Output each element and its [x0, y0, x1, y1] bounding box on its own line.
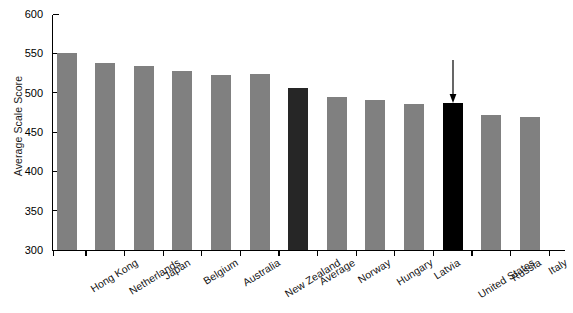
x-category-label: Hungary — [394, 256, 435, 288]
x-tick-mark — [510, 250, 511, 256]
y-tick-label: 450 — [25, 124, 43, 140]
bar — [288, 88, 308, 250]
y-tick-label: 300 — [25, 242, 43, 258]
y-tick-label: 600 — [25, 6, 43, 22]
x-tick-mark — [201, 250, 202, 256]
x-tick-mark — [240, 250, 241, 256]
bar — [57, 53, 77, 250]
bar — [95, 63, 115, 250]
y-axis-title: Average Scale Score — [12, 46, 24, 206]
bar — [520, 117, 540, 250]
x-tick-mark — [356, 250, 357, 256]
x-tick-mark — [471, 250, 472, 256]
bar-chart: Average Scale Score 60055050045040035030… — [0, 0, 573, 313]
bar — [134, 66, 154, 250]
y-tick-label: 500 — [25, 85, 43, 101]
x-tick-mark — [394, 250, 395, 256]
x-category-label: Norway — [355, 256, 392, 285]
x-tick-mark — [433, 250, 434, 256]
bar — [327, 97, 347, 250]
x-category-label: Latvia — [431, 256, 462, 281]
x-category-label: Australia — [240, 256, 282, 288]
x-tick-mark — [124, 250, 125, 256]
x-tick-mark — [163, 250, 164, 256]
y-tick-mark — [53, 14, 59, 15]
plot-area: 600550500450400350300 — [52, 15, 565, 251]
y-tick-label: 550 — [25, 45, 43, 61]
x-tick-mark — [53, 250, 54, 256]
x-tick-mark — [317, 250, 318, 256]
bar — [172, 71, 192, 250]
y-tick-label: 400 — [25, 163, 43, 179]
x-tick-mark — [549, 250, 550, 256]
bar — [443, 103, 463, 250]
x-category-label: Italy — [546, 256, 569, 277]
x-tick-mark — [278, 250, 279, 256]
bar — [211, 75, 231, 250]
x-category-label: Belgium — [201, 256, 240, 287]
y-tick-label: 350 — [25, 203, 43, 219]
bar — [250, 74, 270, 250]
x-tick-mark — [85, 250, 86, 256]
bar — [365, 100, 385, 250]
bar — [481, 115, 501, 250]
down-arrow-icon — [447, 59, 459, 103]
bar — [404, 104, 424, 250]
